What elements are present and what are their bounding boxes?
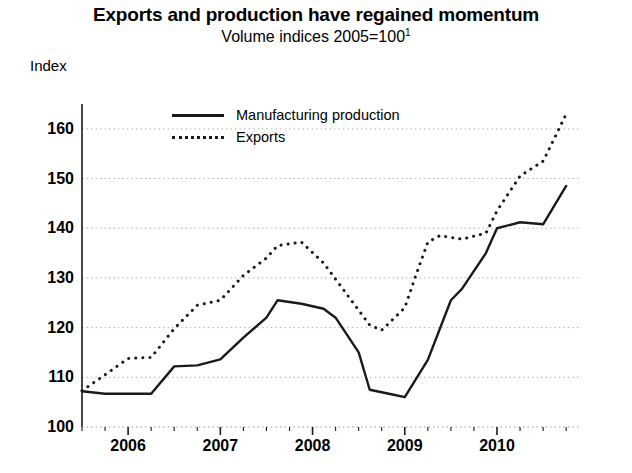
y-axis-tick-130: 130 (18, 269, 74, 287)
axis-lines (82, 104, 580, 427)
chart-subtitle-text: Volume indices 2005=100 (221, 28, 405, 45)
x-axis-ticks (82, 427, 566, 435)
y-axis-tick-160: 160 (18, 120, 74, 138)
y-axis-tick-110: 110 (18, 368, 74, 386)
x-axis-tick-2007: 2007 (180, 437, 260, 455)
y-axis-tick-150: 150 (18, 170, 74, 188)
chart-canvas (82, 104, 580, 427)
series-line-exports (82, 114, 566, 391)
data-series-layer (82, 114, 566, 397)
y-axis-label: Index (30, 57, 67, 74)
chart-subtitle-footnote-marker: 1 (405, 27, 411, 38)
series-line-manufacturing-production (82, 186, 566, 397)
chart-subtitle: Volume indices 2005=1001 (0, 27, 632, 46)
x-axis-tick-2006: 2006 (88, 437, 168, 455)
x-axis-tick-2008: 2008 (273, 437, 353, 455)
y-axis-tick-120: 120 (18, 319, 74, 337)
y-axis-tick-140: 140 (18, 219, 74, 237)
y-axis-tick-100: 100 (18, 418, 74, 436)
plot-area (82, 104, 580, 427)
chart-title: Exports and production have regained mom… (0, 4, 632, 26)
x-axis-tick-2009: 2009 (365, 437, 445, 455)
chart-figure: Exports and production have regained mom… (0, 0, 632, 473)
x-axis-tick-2010: 2010 (457, 437, 537, 455)
grid-lines (82, 129, 580, 377)
